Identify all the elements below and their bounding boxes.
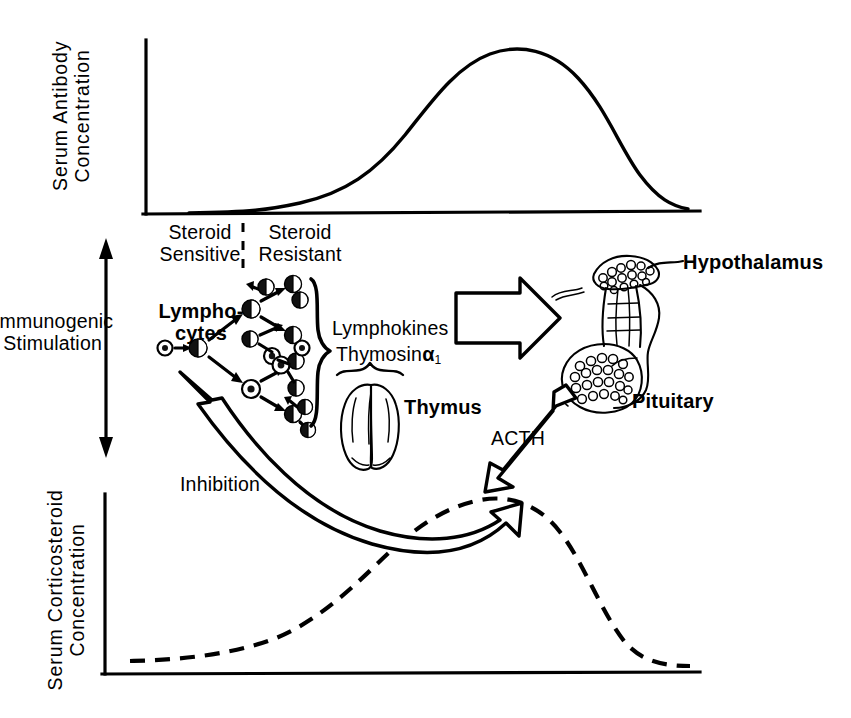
bottom-chart-y-axis-label: Serum Corticosteroid Concentration [45, 468, 89, 712]
lymphokines-brace [311, 279, 330, 426]
lymphocyte-gen2-u1 [285, 276, 302, 293]
bottom-chart-axes [102, 494, 700, 674]
thymosin-word: Thymosin [336, 343, 422, 365]
lymphocyte-top-extra2 [295, 341, 310, 356]
thymosin-label: Thymosinα1 [336, 343, 486, 368]
pituitary-label: Pituitary [632, 390, 742, 412]
lymphocyte-top-extra [292, 292, 308, 308]
immunogenic-stimulation-label: Immunogenic Stimulation [0, 311, 102, 355]
thymosin-subscript: 1 [435, 353, 442, 367]
zone-label-steroid-sensitive: Steroid Sensitive [155, 222, 245, 266]
lymphocyte-gen3-l3 [298, 400, 313, 415]
hypothalamus-label: Hypothalamus [683, 251, 847, 273]
serum-antibody-curve [189, 49, 688, 213]
lymphocyte-gen3-u1 [258, 279, 274, 295]
lymphokines-label: Lymphokines [332, 318, 464, 340]
serum-corticosteroid-curve [130, 498, 690, 666]
inhibition-label: Inhibition [165, 474, 275, 496]
acth-label: ACTH [480, 428, 556, 450]
thymus-label: Thymus [404, 396, 494, 418]
immunology-feedback-diagram: Serum Antibody Concentration Steroid Sen… [0, 0, 851, 718]
thymosin-alpha-glyph: α [422, 343, 434, 365]
top-chart-axes [143, 40, 700, 214]
top-chart-y-axis-label: Serum Antibody Concentration [50, 23, 94, 209]
lymphocyte-gen1-lower [242, 380, 260, 398]
zone-label-steroid-resistant: Steroid Resistant [252, 222, 348, 266]
lymphocytes-label: Lympho- cytes [153, 300, 249, 345]
thymus-organ [341, 385, 399, 470]
lymphocyte-gen3-l2 [288, 380, 304, 396]
